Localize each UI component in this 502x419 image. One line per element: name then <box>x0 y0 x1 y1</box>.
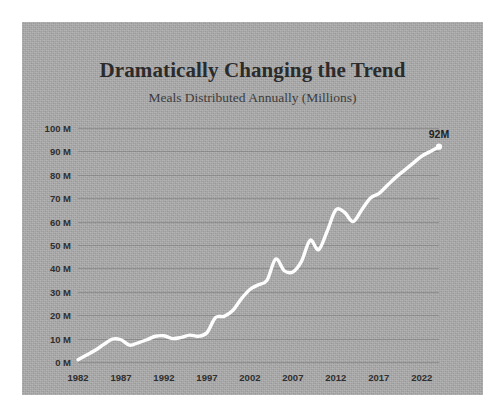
x-axis-tick-label: 2017 <box>368 372 389 383</box>
end-value-label: 92M <box>429 128 449 140</box>
x-axis-tick-label: 1997 <box>196 372 217 383</box>
end-point-marker <box>436 144 442 150</box>
y-axis-tick-label: 60 M <box>50 216 71 227</box>
x-axis-tick-label: 2012 <box>325 372 346 383</box>
y-axis-tick-label: 30 M <box>50 286 71 297</box>
x-axis-tick-label: 1992 <box>153 372 174 383</box>
y-axis-tick-label: 80 M <box>50 169 71 180</box>
y-axis-tick-label: 40 M <box>50 263 71 274</box>
y-axis-tick-label: 70 M <box>50 193 71 204</box>
y-axis-tick-label: 90 M <box>50 146 71 157</box>
chart-subtitle: Meals Distributed Annually (Millions) <box>22 90 483 106</box>
x-axis-tick-label: 1987 <box>110 372 131 383</box>
plot-area: 100 M90 M80 M70 M60 M50 M40 M30 M20 M10 … <box>78 128 439 362</box>
y-axis-tick-label: 50 M <box>50 240 71 251</box>
gridline <box>78 362 439 363</box>
chart-title: Dramatically Changing the Trend <box>22 58 483 83</box>
y-axis-tick-label: 20 M <box>50 310 71 321</box>
x-axis-tick-label: 1982 <box>67 372 88 383</box>
y-axis-tick-label: 10 M <box>50 333 71 344</box>
x-axis-tick-label: 2002 <box>239 372 260 383</box>
y-axis-tick-label: 0 M <box>55 357 71 368</box>
trend-line <box>78 147 439 360</box>
x-axis-tick-label: 2007 <box>282 372 303 383</box>
line-series <box>78 128 439 362</box>
chart-figure: Dramatically Changing the Trend Meals Di… <box>22 22 483 395</box>
y-axis-tick-label: 100 M <box>45 123 71 134</box>
x-axis-tick-label: 2022 <box>411 372 432 383</box>
